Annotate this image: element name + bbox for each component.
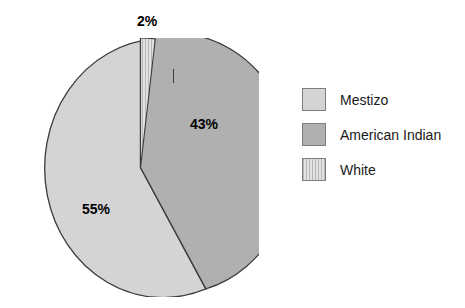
pie-chart-figure: Ethnic groups of the population 2% 43% 5…	[0, 0, 465, 308]
leader-line-white	[173, 69, 174, 83]
pie-chart-svg	[22, 38, 259, 297]
slice-value-mestizo: 55%	[82, 201, 110, 217]
legend-swatch-mestizo	[302, 88, 326, 111]
legend: Mestizo American Indian White	[302, 88, 441, 181]
slice-value-american-indian: 43%	[190, 116, 218, 132]
legend-label-white: White	[340, 162, 376, 178]
legend-swatch-american-indian	[302, 123, 326, 146]
legend-swatch-white	[302, 158, 326, 181]
slice-value-white: 2%	[137, 13, 157, 29]
legend-label-american-indian: American Indian	[340, 127, 441, 143]
legend-item-mestizo: Mestizo	[302, 88, 441, 111]
pie-chart	[22, 38, 259, 297]
legend-label-mestizo: Mestizo	[340, 92, 388, 108]
legend-item-american-indian: American Indian	[302, 123, 441, 146]
legend-item-white: White	[302, 158, 441, 181]
